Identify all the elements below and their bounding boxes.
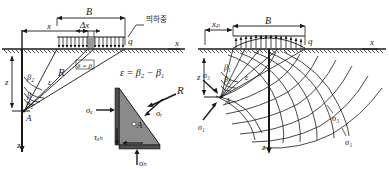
x-axis-label-right: x [369, 37, 374, 47]
B-label-left: B [86, 6, 92, 17]
sigma-1-arrow-at-A [203, 102, 217, 120]
sigma-r-label: σᵣ [156, 108, 162, 118]
angle-beta2-label-right: β₂ [223, 75, 231, 84]
sigma-3-trajectory-curves [221, 52, 382, 148]
delta-equals-beta-group: δ = β [76, 60, 94, 70]
z-axis-label-left: z [16, 140, 21, 150]
z-depth-label-right: z [196, 72, 201, 82]
angle-beta1-label-right: β₁ [223, 63, 231, 72]
load-annotation-left: 띄하중 [146, 14, 167, 24]
stress-element-triangle [119, 88, 160, 145]
angle-beta1-label-left: β₁ [25, 99, 33, 109]
delta-equals-beta-label: δ = β [77, 62, 92, 70]
angle-beta2-label-left: β₂ [26, 72, 34, 82]
z-axis-label-right: z [261, 142, 266, 152]
sigma-3-trajectory-label: σ₃ [332, 113, 339, 123]
q-label-right: q [308, 36, 313, 46]
B-label-right: B [265, 15, 271, 26]
dimension-z-left: z [4, 56, 14, 108]
figure-svg: x B x Δx [0, 0, 389, 169]
x-dimension-label-left: x [46, 21, 51, 31]
resultant-R-arrow [147, 94, 176, 107]
left-panel: x B x Δx [2, 6, 185, 168]
delta-x-strip [88, 37, 94, 48]
point-A-label-element: A [136, 120, 143, 130]
load-arrows-right [235, 35, 303, 48]
dimension-xp-right: xₚ [205, 19, 232, 45]
ground-hatch-right [200, 50, 383, 53]
x-axis-label-left: x [174, 38, 179, 48]
z-depth-label-left: z [4, 77, 9, 87]
xp-label-right: xₚ [211, 19, 220, 29]
point-A-label-left: A [25, 113, 32, 123]
stress-element-group: A σₓ σₕ σᵣ R [86, 84, 184, 168]
sigma-1-label-at-A: σ₁ [198, 123, 205, 132]
sigma-1-trajectory-label: σ₁ [345, 137, 352, 147]
sigma-3-label-at-A: σ₃ [203, 71, 210, 80]
dimension-B-right: B [233, 15, 305, 45]
right-panel: x xₚ B q [196, 15, 386, 154]
point-A-marker-element [132, 122, 136, 126]
sigma-x-label: σₓ [86, 105, 93, 115]
element-bottom-face [119, 145, 160, 149]
R-label-left: R [57, 66, 65, 78]
epsilon-equation: ε = β₂ − β₁ [120, 67, 164, 78]
tau-xz-label: τₓₕ [94, 132, 103, 142]
sigma-x-arrow [96, 107, 115, 112]
figure-root: x B x Δx [0, 0, 389, 169]
delta-x-label: Δx [79, 20, 89, 30]
epsilon-label-left: ε [48, 77, 52, 87]
sigma-1-trajectory-leader [342, 128, 346, 136]
ground-hatch [4, 50, 183, 53]
load-distribution-curve [233, 38, 305, 48]
R-label-element: R [176, 84, 184, 96]
sigma-1-trajectory-curves [216, 52, 349, 143]
q-label-left: q [128, 36, 133, 46]
sigma-z-label: σₕ [139, 158, 147, 168]
